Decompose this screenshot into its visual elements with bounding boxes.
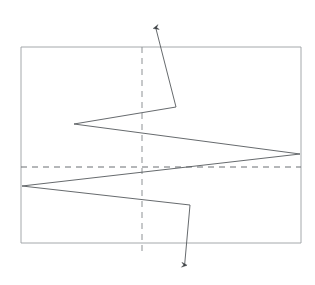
bounding-rectangle [21, 47, 301, 243]
sawtooth-polyline [22, 107, 300, 205]
down-arrow [185, 205, 190, 265]
diagram-svg [0, 0, 315, 285]
diagram-canvas [0, 0, 315, 285]
up-arrow [156, 28, 176, 107]
